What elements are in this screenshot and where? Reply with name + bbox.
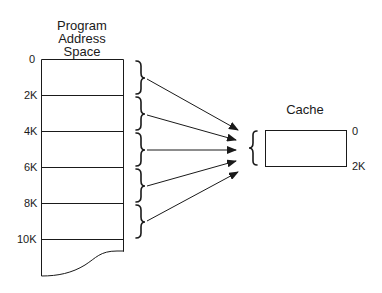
arrow-icon xyxy=(147,172,238,221)
brace-icon xyxy=(136,61,145,94)
brace-icon xyxy=(136,97,145,130)
diagram-graphics xyxy=(0,0,382,293)
brace-icon xyxy=(136,169,145,202)
cache-box xyxy=(266,131,347,167)
arrow-icon xyxy=(147,115,236,140)
mapping-arrows xyxy=(147,79,238,221)
brace-icon xyxy=(136,133,145,166)
program-space-box xyxy=(42,60,124,277)
segment-braces xyxy=(136,61,145,238)
brace-icon xyxy=(136,205,145,238)
arrow-icon xyxy=(147,79,238,130)
arrow-icon xyxy=(147,161,236,186)
cache-brace-icon xyxy=(249,131,257,165)
